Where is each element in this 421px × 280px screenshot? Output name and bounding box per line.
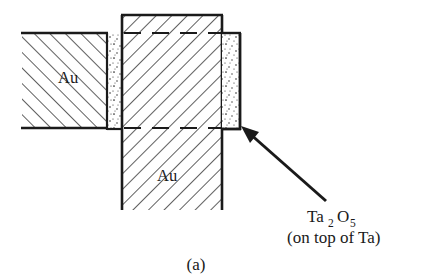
right-oxide-strip-fill (222, 33, 240, 130)
arrow-shaft (249, 133, 326, 201)
oxide-formula-ta: Ta (307, 207, 324, 226)
left-oxide-strip (107, 33, 123, 130)
oxide-callout-arrow (241, 126, 326, 201)
figure-caption: (a) (187, 255, 206, 274)
oxide-formula-o: O (337, 207, 349, 226)
cross-section-diagram: Au Au Ta 2 O 5 (on top of Ta) (a) (0, 0, 421, 280)
oxide-note-label: (on top of Ta) (287, 228, 380, 247)
oxide-formula-label: Ta 2 O 5 (307, 207, 356, 229)
right-oxide-strip (221, 33, 241, 130)
au-label-lower: Au (157, 166, 177, 185)
au-label-upper: Au (58, 68, 78, 87)
left-oxide-strip-fill (107, 33, 122, 130)
figure-container: Au Au Ta 2 O 5 (on top of Ta) (a) (0, 0, 421, 280)
